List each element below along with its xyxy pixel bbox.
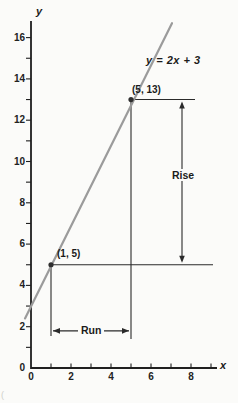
run-annotation-label: Run	[78, 324, 104, 336]
x-tick-label: 8	[188, 371, 194, 382]
arrowhead	[179, 102, 185, 109]
axes	[31, 21, 217, 368]
graph-figure: y = 2x + 3 (5, 13) (1, 5) Rise Run y x (…	[0, 0, 238, 403]
y-axis-letter: y	[36, 5, 42, 17]
y-tick-label: 14	[4, 73, 25, 85]
x-tick-label: 6	[148, 371, 154, 382]
x-tick-label: 0	[28, 371, 34, 382]
y-tick-label: 6	[4, 238, 25, 250]
point-dot	[128, 97, 133, 102]
y-tick-label: 4	[4, 279, 25, 291]
point-label-1-5: (1, 5)	[57, 248, 80, 259]
rise-annotation-label: Rise	[170, 169, 196, 181]
point-dot	[48, 262, 53, 267]
y-tick-label: 12	[4, 114, 25, 126]
x-tick-label: 2	[68, 371, 74, 382]
point-label-5-13: (5, 13)	[132, 84, 161, 95]
caption-fragment: (	[1, 390, 4, 400]
y-tick-label: 16	[4, 32, 25, 44]
x-tick-label: 4	[108, 371, 114, 382]
function-line	[25, 23, 172, 318]
equation-label: y = 2x + 3	[146, 54, 201, 66]
y-tick-label: 0	[4, 362, 25, 374]
arrowhead	[122, 328, 129, 334]
y-tick-label: 10	[4, 156, 25, 168]
plot-canvas	[0, 0, 238, 403]
y-tick-label: 8	[4, 197, 25, 209]
arrowhead	[53, 328, 60, 334]
y-tick-label: 2	[4, 321, 25, 333]
x-axis-letter: x	[220, 359, 226, 371]
arrowhead	[179, 256, 185, 263]
